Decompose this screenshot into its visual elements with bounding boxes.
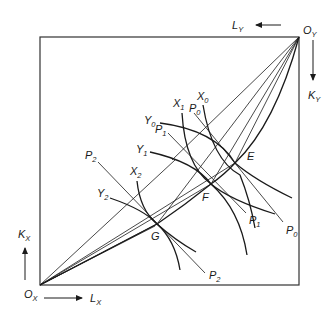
price-line-p1-top-label: P1 (155, 123, 167, 138)
price-line-p0-bottom-label: P0 (286, 224, 298, 239)
price-line-p2-top-label: P2 (85, 149, 97, 164)
point-e-label: E (247, 150, 255, 162)
isoquant-x0-label: X0 (196, 90, 209, 105)
isoquant-x1-label: X1 (172, 97, 185, 112)
isoquant-y1-label: Y1 (136, 143, 148, 158)
ray-oy-e (235, 37, 299, 163)
point-g-label: G (151, 230, 160, 242)
origin-x-label: OX (24, 288, 39, 303)
isoquant-x2-label: X2 (129, 165, 142, 180)
price-line-p2-bottom-label: P2 (209, 269, 221, 284)
axis-lx-label: LX (90, 292, 102, 307)
origin-y-label: OY (303, 24, 318, 39)
axis-kx-label: KX (18, 228, 31, 243)
ray-ox-f (40, 184, 211, 285)
edgeworth-box-diagram: OY OX LY KY KX LX E F G X0 X1 X2 Y0 Y1 Y… (0, 0, 336, 320)
isoquant-y0 (160, 123, 292, 198)
price-line-p2 (98, 162, 205, 273)
axis-ly-label: LY (232, 19, 244, 34)
axis-ky-label: KY (308, 89, 321, 104)
isoquant-y2-label: Y2 (97, 187, 109, 202)
point-f-label: F (202, 191, 210, 203)
ray-oy-upper (172, 37, 299, 160)
isoquant-x1 (182, 113, 247, 255)
